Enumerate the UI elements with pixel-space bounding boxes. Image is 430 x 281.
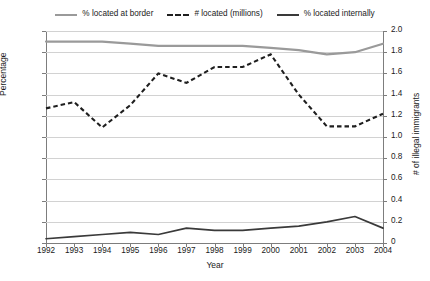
dashed-line-icon	[167, 10, 189, 19]
legend-item-border: % located at border	[55, 10, 153, 19]
y-axis-right-tick	[383, 116, 387, 117]
y-axis-right-tick-label: 0.2	[391, 217, 421, 225]
series-line-located-at-border	[46, 42, 383, 55]
legend-label-millions: # located (millions)	[194, 10, 262, 18]
y-axis-right-tick	[383, 95, 387, 96]
y-axis-right-tick-label: 1.4	[391, 90, 421, 98]
y-axis-right-tick-label: 0.8	[391, 153, 421, 161]
y-axis-right-tick	[383, 158, 387, 159]
legend-item-internally: % located internally	[277, 10, 375, 19]
solid-light-line-icon	[55, 10, 77, 19]
y-axis-right-tick-label: 1.0	[391, 132, 421, 140]
y-axis-right-tick-label: 0.4	[391, 196, 421, 204]
y-axis-left-title: Percentage	[0, 53, 8, 96]
chart-legend: % located at border # located (millions)…	[0, 6, 430, 22]
series-line-located-internally	[46, 217, 383, 239]
y-axis-right-tick	[383, 222, 387, 223]
y-axis-right-tick-label: 1.6	[391, 68, 421, 76]
y-axis-right-tick-label: 1.2	[391, 111, 421, 119]
legend-item-millions: # located (millions)	[167, 10, 262, 19]
x-axis-title: Year	[0, 260, 430, 270]
y-axis-right-tick	[383, 137, 387, 138]
y-axis-right-tick-label: 0	[391, 238, 421, 246]
legend-label-border: % located at border	[82, 10, 153, 18]
y-axis-right-tick-label: 2.0	[391, 26, 421, 34]
y-axis-right-tick	[383, 31, 387, 32]
y-axis-right-tick-label: 1.8	[391, 47, 421, 55]
series-line-located-millions	[46, 54, 383, 127]
legend-label-internally: % located internally	[304, 10, 375, 18]
y-axis-right-tick	[383, 201, 387, 202]
y-axis-right-tick-label: 0.6	[391, 174, 421, 182]
y-axis-right-tick	[383, 179, 387, 180]
x-axis-tick-label: 2004	[363, 247, 403, 255]
series-layer	[46, 31, 383, 243]
y-axis-right-tick	[383, 52, 387, 53]
y-axis-right-tick	[383, 73, 387, 74]
chart-container: % located at border # located (millions)…	[0, 0, 430, 281]
solid-dark-line-icon	[277, 10, 299, 19]
plot-area: 0102030405060708090100 00.20.40.60.81.01…	[46, 31, 383, 243]
